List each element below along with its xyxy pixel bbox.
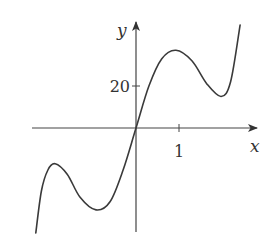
y-tick-label: 20 <box>110 77 130 96</box>
x-tick-label: 1 <box>174 142 184 161</box>
y-axis-label: y <box>116 20 127 40</box>
x-axis-label: x <box>250 136 260 156</box>
function-graph: 1 20 x y <box>0 0 277 249</box>
function-curve <box>36 25 240 233</box>
